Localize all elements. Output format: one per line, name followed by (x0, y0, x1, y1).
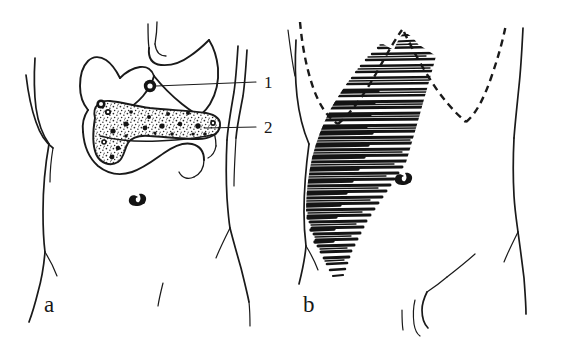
panel-b-hatched-region (304, 34, 441, 276)
panel-a: 1 2 a (26, 22, 273, 326)
panel-a-stomach (148, 22, 218, 121)
panel-b-umbilicus (395, 173, 412, 185)
panel-a-duct-orifice-ring (144, 80, 156, 92)
callout-label-1: 1 (264, 73, 273, 92)
callout-label-2: 2 (264, 118, 273, 137)
panel-b: b (288, 22, 526, 336)
panel-a-right-body-contour (216, 46, 250, 326)
panel-b-inguinal-folds (402, 254, 475, 336)
panel-a-umbilicus (129, 194, 146, 206)
panel-b-right-body-contour (504, 28, 526, 314)
panel-letter-a: a (44, 292, 54, 317)
panel-letter-b: b (303, 292, 315, 317)
anatomical-figure: 1 2 a (0, 0, 563, 354)
panel-a-pancreas (93, 99, 220, 164)
panel-a-left-body-contour (26, 58, 57, 322)
figure-canvas: 1 2 a (0, 0, 563, 354)
panel-a-linea-mark (158, 283, 163, 306)
